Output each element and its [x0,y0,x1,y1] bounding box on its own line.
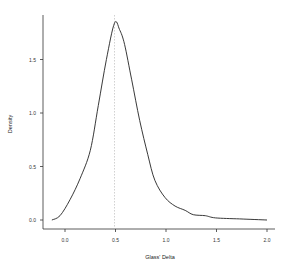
x-tick-label: 1.5 [213,237,220,243]
x-axis-ticks: 0.00.51.01.52.0 [62,229,271,243]
density-plot: 0.00.51.01.52.0 0.00.51.01.5 Glass' Delt… [0,0,288,271]
y-axis-title: Density [7,115,13,134]
y-tick-label: 0.0 [29,217,36,223]
x-tick-label: 0.0 [62,237,69,243]
x-tick-label: 0.5 [112,237,119,243]
axes [43,15,275,229]
y-tick-label: 0.5 [29,164,36,170]
y-tick-label: 1.5 [29,57,36,63]
x-tick-label: 1.0 [163,237,170,243]
density-curve [52,21,267,220]
y-axis-ticks: 0.00.51.01.5 [29,57,43,224]
y-tick-label: 1.0 [29,110,36,116]
x-tick-label: 2.0 [264,237,271,243]
x-axis-title: Glass' Delta [145,254,175,260]
